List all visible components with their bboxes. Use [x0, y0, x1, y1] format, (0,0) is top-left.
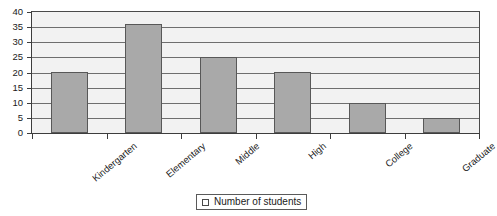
bar [349, 103, 386, 133]
x-axis-tick [32, 134, 33, 139]
x-axis-tick [181, 134, 182, 139]
y-axis-tick-label: 20 [0, 68, 23, 78]
legend: Number of students [196, 194, 307, 210]
x-axis-tick-label: High [307, 141, 328, 161]
y-axis-tick-label: 40 [0, 7, 23, 17]
y-axis-tick-label: 25 [0, 52, 23, 62]
x-axis-tick-label: Middle [234, 141, 262, 167]
x-axis-tick [405, 134, 406, 139]
y-axis-tick-label: 10 [0, 98, 23, 108]
bar [125, 24, 162, 133]
y-axis-tick-label: 5 [0, 113, 23, 123]
bar [200, 57, 237, 133]
x-axis-tick-label: Kindergarten [91, 141, 139, 184]
y-axis-tick-label: 0 [0, 128, 23, 138]
x-axis-tick [256, 134, 257, 139]
x-axis-tick [479, 134, 480, 139]
x-axis-tick [330, 134, 331, 139]
x-axis-tick-label: College [384, 141, 415, 169]
legend-label: Number of students [214, 197, 301, 207]
y-axis-tick-label: 30 [0, 37, 23, 47]
x-axis-tick-label: Elementary [164, 141, 207, 180]
bar [423, 118, 460, 133]
y-axis-tick-label: 35 [0, 22, 23, 32]
bar [51, 72, 88, 133]
bar [274, 72, 311, 133]
bar-series-number-of-students [32, 12, 479, 133]
legend-swatch-icon [202, 199, 209, 206]
x-axis-tick [107, 134, 108, 139]
y-axis-tick-label: 15 [0, 83, 23, 93]
bar-chart: 0510152025303540 KindergartenElementaryM… [0, 0, 497, 216]
x-axis-tick-label: Graduate [460, 141, 497, 174]
